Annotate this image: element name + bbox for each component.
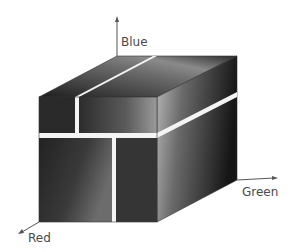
- blue-axis-label: Blue: [121, 35, 148, 49]
- front-upper-vertical-gap: [75, 97, 79, 133]
- green-arrow-icon: [272, 176, 278, 180]
- blue-axis: Blue: [115, 16, 148, 56]
- green-axis: Green: [237, 176, 278, 199]
- green-axis-line: [237, 178, 274, 180]
- green-axis-label: Green: [242, 185, 278, 199]
- red-axis: Red: [18, 222, 51, 245]
- front-upper-left-block: [39, 97, 75, 133]
- front-upper-right-block: [79, 97, 157, 133]
- rgb-cube-diagram: Blue Green Red: [0, 0, 289, 252]
- front-horizontal-gap: [39, 133, 157, 138]
- front-lower-right-block: [116, 138, 157, 222]
- blue-arrow-icon: [115, 16, 119, 22]
- red-arrow-icon: [18, 229, 24, 234]
- red-axis-label: Red: [28, 231, 51, 245]
- front-lower-left-block: [39, 138, 112, 222]
- front-lower-vertical-gap: [112, 138, 116, 222]
